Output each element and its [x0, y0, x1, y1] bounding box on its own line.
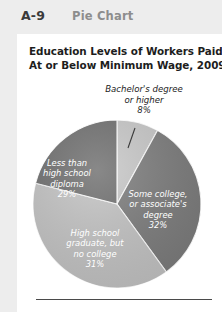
figure-header-band: FIGURE A-9 Pie Chart	[0, 0, 222, 34]
slice-label-some-college-line-3: degree	[143, 210, 173, 220]
figure-panel: FIGURE A-9 Pie Chart Education Levels of…	[0, 0, 222, 312]
slice-label-hs-graduate-percent: 31%	[86, 259, 105, 269]
chart-title-line-2: At or Below Minimum Wage, 2009	[29, 59, 215, 73]
slice-label-less-than-hs-line-1: Less than	[47, 158, 87, 168]
figure-left-rail	[0, 34, 17, 312]
slice-label-less-than-hs-percent: 29%	[58, 189, 77, 199]
callout-percent: 8%	[82, 105, 206, 116]
slice-label-hs-graduate-line-1: High school	[71, 228, 120, 238]
slice-label-less-than-hs-line-2: high school	[43, 168, 91, 178]
callout-bachelors: Bachelor's degree or higher 8%	[82, 84, 206, 116]
slice-label-hs-graduate-line-3: no college	[73, 249, 116, 259]
slice-label-hs-graduate: High school graduate, but no college 31%	[47, 228, 143, 270]
chart-title: Education Levels of Workers Paid At or B…	[29, 45, 215, 72]
callout-line-1: Bachelor's degree	[105, 84, 183, 94]
chart-title-line-1: Education Levels of Workers Paid	[29, 45, 215, 59]
slice-label-some-college-percent: 32%	[149, 220, 168, 230]
callout-line-2: or higher	[124, 95, 163, 105]
slice-label-some-college: Some college, or associate's degree 32%	[112, 189, 204, 231]
slice-label-some-college-line-1: Some college,	[128, 189, 187, 199]
slice-label-less-than-hs: Less than high school diploma 29%	[30, 158, 104, 200]
figure-number: A-9	[21, 8, 45, 23]
slice-label-hs-graduate-line-2: graduate, but	[66, 238, 123, 248]
slice-label-some-college-line-2: or associate's	[129, 199, 186, 209]
slice-label-less-than-hs-line-3: diploma	[50, 179, 84, 189]
footer-divider	[36, 299, 212, 300]
figure-kind-label: Pie Chart	[72, 9, 134, 23]
